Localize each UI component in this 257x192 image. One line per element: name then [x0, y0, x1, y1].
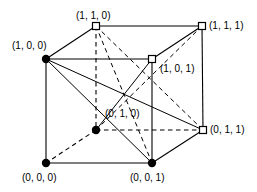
- vertex-marker-v110: [93, 23, 100, 30]
- edge-v001-v011: [152, 130, 203, 163]
- vertex-marker-v011: [200, 127, 207, 134]
- vertex-label-v100: (1, 0, 0): [12, 40, 46, 51]
- edge-v101-v111: [152, 26, 202, 59]
- cube-diagonals-dashed: [96, 26, 203, 163]
- vertex-label-v011: (0, 1, 1): [210, 124, 244, 135]
- edge-v110-v100: [46, 26, 96, 59]
- vertex-marker-v001: [148, 159, 156, 167]
- edge-v010-v000: [46, 130, 96, 163]
- vertex-label-v000: (0, 0, 0): [22, 172, 56, 183]
- vertex-marker-v000: [42, 159, 50, 167]
- vertex-marker-v101: [149, 56, 156, 63]
- vertex-label-v101: (1, 0, 1): [160, 63, 194, 74]
- vertex-label-v110: (1, 1, 0): [76, 10, 110, 21]
- cube-diagram: (1, 1, 0) (1, 1, 1) (1, 0, 0) (1, 0, 1) …: [0, 0, 257, 192]
- edge-v111-v011: [202, 26, 203, 130]
- vertex-label-v001: (0, 0, 1): [130, 172, 164, 183]
- vertex-marker-v111: [199, 23, 206, 30]
- vertex-label-v111: (1, 1, 1): [209, 20, 243, 31]
- vertex-marker-v100: [42, 55, 50, 63]
- diagonal-v110-v001: [96, 26, 152, 163]
- vertex-label-v010: (0, 1, 0): [105, 108, 139, 119]
- vertex-marker-v010: [92, 126, 100, 134]
